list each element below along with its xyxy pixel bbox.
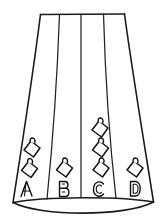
diamond-icon: [127, 161, 143, 177]
column-c-label-glyph: [93, 182, 103, 196]
column-a[interactable]: A: [21, 138, 40, 196]
column-c-label: C: [93, 182, 103, 196]
token-c-3[interactable]: [93, 158, 109, 177]
token-b-1[interactable]: [57, 158, 73, 177]
trapezoid-pictogram-svg: A B: [0, 0, 166, 224]
token-a-1[interactable]: [24, 138, 40, 157]
diamond-icon: [92, 121, 108, 137]
trapezoid-hem-lower-arc: [13, 202, 154, 213]
token-d-1[interactable]: [127, 158, 143, 177]
diamond-icon: [57, 161, 73, 177]
token-c-2[interactable]: [93, 138, 109, 157]
column-c-label-glyph-inner: [96, 185, 101, 193]
diamond-icon: [93, 161, 109, 177]
column-a-label: A: [21, 182, 32, 197]
column-b-label: B: [60, 182, 69, 197]
figure-root: A B: [0, 0, 166, 224]
trapezoid-top-edge: [41, 14, 125, 15]
diamond-icon: [22, 162, 38, 178]
diamond-icon: [93, 141, 109, 157]
column-d-label: D: [131, 182, 141, 197]
diamond-icon: [24, 141, 40, 157]
token-a-2[interactable]: [22, 159, 38, 178]
token-c-1[interactable]: [92, 118, 108, 137]
column-d-label-glyph-inner: [133, 184, 138, 193]
trapezoid-outline: [13, 14, 154, 213]
column-c[interactable]: C: [92, 118, 109, 196]
column-d[interactable]: D: [127, 158, 143, 196]
column-a-label-glyph: [21, 182, 32, 197]
column-b[interactable]: B: [57, 158, 73, 196]
trapezoid-hem-upper-arc: [13, 198, 154, 203]
